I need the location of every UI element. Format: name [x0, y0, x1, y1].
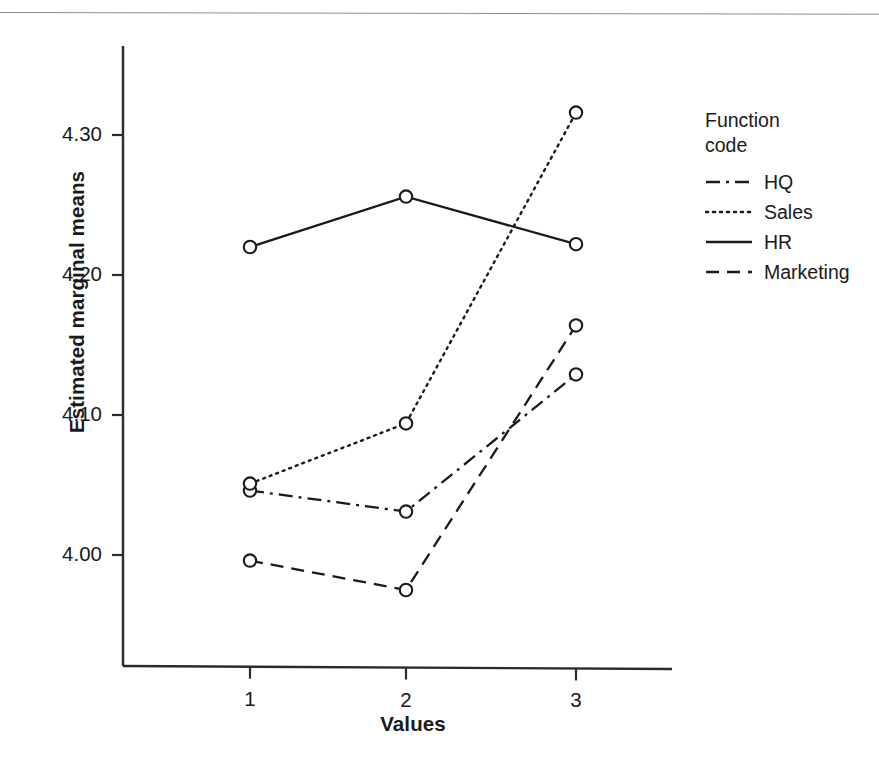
legend-line-sample-icon: [705, 205, 753, 219]
data-point-marker: [400, 584, 412, 596]
series-line-hq: [250, 374, 576, 511]
series-line-marketing: [250, 325, 576, 590]
y-axis-title: Estimated marginal means: [65, 152, 89, 452]
data-point-marker: [244, 477, 256, 489]
y-tick-label: 4.30: [16, 124, 102, 145]
series-line-sales: [250, 113, 576, 484]
y-tick-label: 4.20: [16, 264, 102, 285]
legend-label: Sales: [764, 201, 813, 224]
profile-plot-figure: 4.004.104.204.30 123 Estimated marginal …: [0, 0, 879, 765]
legend-line-sample-icon: [705, 175, 753, 189]
legend-line-sample-icon: [705, 265, 753, 279]
legend-items: HQSalesHRMarketing: [705, 167, 879, 287]
data-point-marker: [570, 319, 582, 331]
x-axis-line: [123, 666, 672, 669]
legend-item-hr[interactable]: HR: [705, 227, 879, 257]
x-tick-label: 3: [546, 690, 606, 711]
data-point-marker: [244, 554, 256, 566]
data-series: [244, 106, 582, 596]
axes: [112, 46, 672, 680]
data-point-marker: [244, 241, 256, 253]
legend-line-sample-icon: [705, 235, 753, 249]
legend-item-marketing[interactable]: Marketing: [705, 257, 879, 287]
x-tick-label: 1: [220, 689, 280, 710]
data-point-marker: [570, 238, 582, 250]
legend-item-hq[interactable]: HQ: [705, 167, 879, 197]
data-point-marker: [570, 368, 582, 380]
series-line-hr: [250, 197, 576, 247]
x-axis-title: Values: [253, 712, 573, 736]
data-point-marker: [400, 505, 412, 517]
x-tick-label: 2: [376, 690, 436, 711]
data-point-marker: [400, 417, 412, 429]
legend: Function code HQSalesHRMarketing: [705, 108, 879, 287]
legend-title: Function code: [705, 108, 879, 158]
data-point-marker: [400, 190, 412, 202]
legend-label: Marketing: [764, 261, 850, 284]
legend-label: HR: [764, 231, 792, 254]
y-tick-label: 4.10: [16, 404, 102, 425]
legend-label: HQ: [764, 171, 793, 194]
y-tick-label: 4.00: [16, 544, 102, 565]
data-point-marker: [570, 106, 582, 118]
legend-item-sales[interactable]: Sales: [705, 197, 879, 227]
